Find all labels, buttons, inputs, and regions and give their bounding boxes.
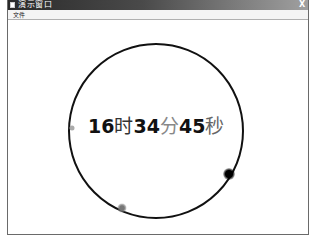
app-icon bbox=[10, 2, 15, 8]
minute-marker-dot bbox=[118, 204, 127, 213]
close-button[interactable]: X bbox=[298, 1, 306, 9]
clock-canvas: 16时34分45秒 bbox=[8, 20, 308, 234]
second-marker-dot bbox=[70, 126, 75, 131]
window-title: 演示窗口 bbox=[18, 0, 52, 10]
minutes-unit: 分 bbox=[160, 115, 179, 137]
app-window: 演示窗口 X 文件 16时34分45秒 bbox=[7, 0, 309, 235]
hour-marker-dot bbox=[223, 168, 235, 180]
menu-bar: 文件 bbox=[8, 10, 308, 20]
hours-value: 16 bbox=[88, 115, 114, 137]
menu-item-file[interactable]: 文件 bbox=[13, 10, 25, 19]
minutes-value: 34 bbox=[133, 115, 159, 137]
seconds-unit: 秒 bbox=[205, 115, 224, 137]
hours-unit: 时 bbox=[114, 115, 133, 137]
digital-time-display: 16时34分45秒 bbox=[88, 115, 224, 137]
title-bar[interactable]: 演示窗口 X bbox=[8, 0, 308, 10]
seconds-value: 45 bbox=[179, 115, 205, 137]
